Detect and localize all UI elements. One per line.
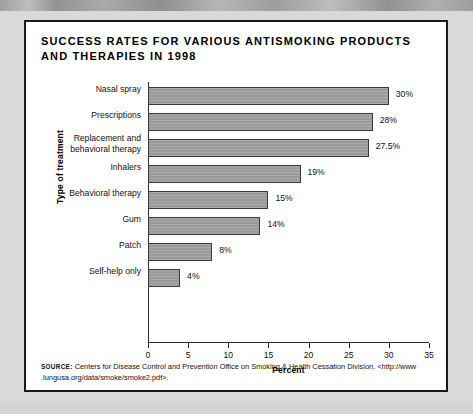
source-label: SOURCE: [41,363,73,370]
bar-category-label: Patch [36,240,148,251]
bar-row: Gum14% [148,214,428,240]
bar [148,191,268,209]
bar [148,87,389,105]
bar-value-label: 28% [380,115,397,125]
bar-row: Self-help only4% [148,266,428,292]
bar [148,113,373,131]
bar-row: Prescriptions28% [148,110,428,136]
bar [148,217,260,235]
bar-category-label: Replacement andbehavioral therapy [36,133,148,155]
bar-row: Nasal spray30% [148,84,428,110]
x-axis-tick-label: 25 [334,350,364,360]
bar-category-label: Inhalers [36,162,148,173]
scan-artifact-band-bottom [0,403,473,414]
x-axis-tick [268,343,269,348]
source-note: SOURCE: Centers for Disease Control and … [41,362,437,383]
bar [148,269,180,287]
bar-value-label: 15% [275,193,292,203]
x-axis-tick [429,343,430,348]
bar-category-label: Behavioral therapy [36,188,148,199]
bar-value-label: 30% [396,89,413,99]
source-text: Centers for Disease Control and Preventi… [41,362,416,382]
bar-row: Inhalers19% [148,162,428,188]
bar-value-label: 4% [187,271,199,281]
chart-plot-area: Type of treatment Nasal spray30%Prescrip… [34,82,444,354]
bar-category-label: Prescriptions [36,110,148,121]
bar-category-label: Self-help only [36,266,148,277]
bar-value-label: 14% [267,219,284,229]
x-axis-tick [188,343,189,348]
x-axis-tick [228,343,229,348]
bars-region: Nasal spray30%Prescriptions28%Replacemen… [148,84,428,342]
bar-category-label: Gum [36,214,148,225]
scan-artifact-band-top [0,0,473,11]
x-axis-line [148,342,429,343]
x-axis-tick-label: 30 [374,350,404,360]
bar-category-label: Nasal spray [36,84,148,95]
x-axis-tick-label: 10 [213,350,243,360]
x-axis-tick-label: 35 [414,350,444,360]
x-axis-tick-label: 20 [294,350,324,360]
bar-row: Behavioral therapy15% [148,188,428,214]
figure-card: SUCCESS RATES FOR VARIOUS ANTISMOKING PR… [24,20,448,392]
bar [148,139,369,157]
figure-title: SUCCESS RATES FOR VARIOUS ANTISMOKING PR… [41,34,433,64]
x-axis-tick-label: 15 [253,350,283,360]
x-axis-tick [349,343,350,348]
bar [148,243,212,261]
bar-value-label: 8% [219,245,231,255]
bar-row: Replacement andbehavioral therapy27.5% [148,136,428,162]
bar-value-label: 19% [308,167,325,177]
bar [148,165,301,183]
x-axis-tick-label: 0 [133,350,163,360]
x-axis-tick-label: 5 [173,350,203,360]
bar-row: Patch8% [148,240,428,266]
x-axis-tick [309,343,310,348]
x-axis-tick [148,343,149,348]
x-axis-tick [389,343,390,348]
bar-value-label: 27.5% [376,141,400,151]
